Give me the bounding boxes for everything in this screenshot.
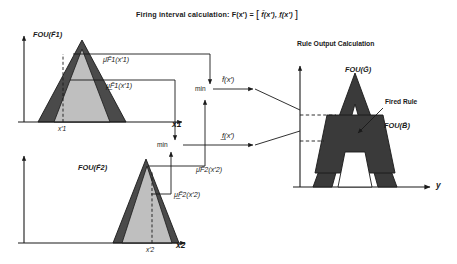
consequent-panel-title: Rule Output Calculation — [297, 41, 374, 48]
figure-title: Firing interval calculation: F(x′) = [ f… — [136, 9, 298, 20]
antecedent-2-upper-connector — [148, 100, 205, 166]
lower-firing-label: f̲(x′) — [222, 132, 234, 140]
bracket-open: [ — [256, 8, 259, 20]
title-upper-firing: f̄(x′), — [261, 10, 277, 19]
upper-firing-to-consequent — [255, 89, 300, 110]
antecedent-2-upper-membership-label: μ̄F̃2(x′2) — [196, 166, 222, 173]
figure-title-formula: F(x′) = — [232, 10, 254, 19]
antecedent-1-lower-membership-label: μ̲F̃1(x′1) — [106, 82, 132, 89]
consequent-fou-g-label: FOU(G̃) — [345, 66, 371, 73]
antecedent-1-axis-label: x1 — [172, 120, 181, 128]
min-upper-label: min — [195, 86, 206, 93]
figure-title-prefix: Firing interval calculation: — [136, 10, 230, 19]
title-lower-firing: f̲(x′) — [279, 10, 293, 19]
antecedent-2-fou-label: FOU(F̃2) — [78, 164, 107, 171]
fuzzy-inference-diagram: Firing interval calculation: F(x′) = [ f… — [0, 0, 457, 264]
min-lower-label: min — [157, 142, 168, 149]
lower-firing-to-consequent — [255, 131, 300, 145]
antecedent-2-axis-label: x2 — [176, 241, 185, 249]
fired-rule-label: Fired Rule — [385, 99, 417, 106]
antecedent-2-lower-membership-label: μ̲F̃2(x′2) — [174, 191, 200, 198]
consequent-fou-b-label: FOU(B̃) — [384, 122, 410, 129]
antecedent-2-input-tick-label: x′2 — [146, 247, 154, 254]
antecedent-1-fou-label: FOU(F̃1) — [33, 31, 62, 38]
antecedent-1-input-tick-label: x′1 — [58, 126, 66, 133]
min-operators-group — [183, 89, 300, 145]
bracket-close: ] — [295, 8, 298, 20]
upper-firing-label: f̄(x′) — [222, 76, 234, 84]
consequent-axis-label: y — [436, 181, 441, 189]
antecedent-1-upper-membership-label: μ̄F̃1(x′1) — [103, 56, 129, 63]
